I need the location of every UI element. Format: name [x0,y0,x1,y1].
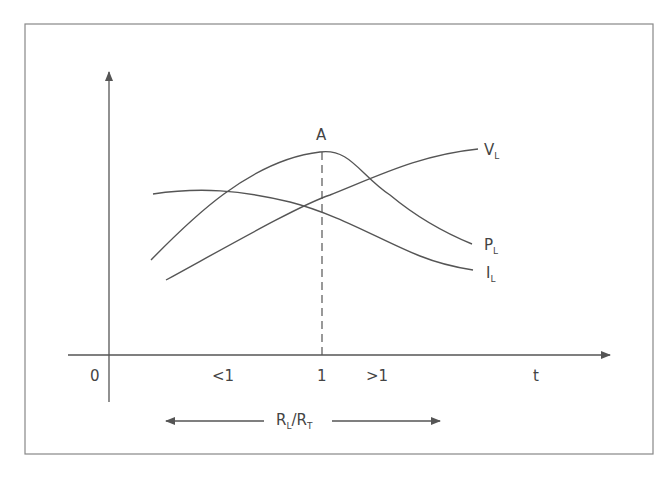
origin-label: 0 [90,367,100,385]
tick-less-than-1: <1 [212,367,234,385]
tick-greater-than-1: >1 [366,367,388,385]
label-v-l: VL [484,141,499,161]
ratio-label: RL/RT [276,411,313,431]
curve-p-l [151,152,472,260]
label-i-l: IL [486,264,495,284]
frame-border [25,24,653,454]
peak-label: A [316,126,327,144]
x-axis-label: t [533,367,539,385]
tick-equal-1: 1 [317,367,327,385]
power-transfer-diagram: A VL PL IL 0 <1 1 >1 t RL/RT [0,0,670,496]
label-p-l: PL [484,236,498,256]
